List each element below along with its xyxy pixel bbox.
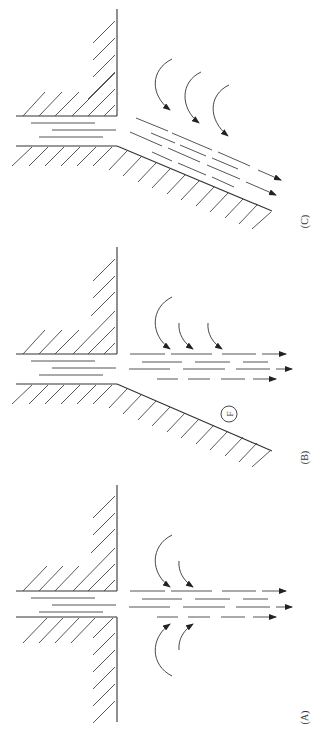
panel-b: F <box>12 247 292 467</box>
svg-text:F: F <box>225 411 235 416</box>
diagram-canvas: F <box>0 0 321 730</box>
panel-b-label: (B) <box>299 451 310 464</box>
region-f-marker: F <box>221 406 237 422</box>
panel-a-label: (A) <box>299 711 310 725</box>
panel-c-label: (C) <box>299 215 310 228</box>
panel-c <box>12 9 281 229</box>
panel-a <box>16 485 292 723</box>
